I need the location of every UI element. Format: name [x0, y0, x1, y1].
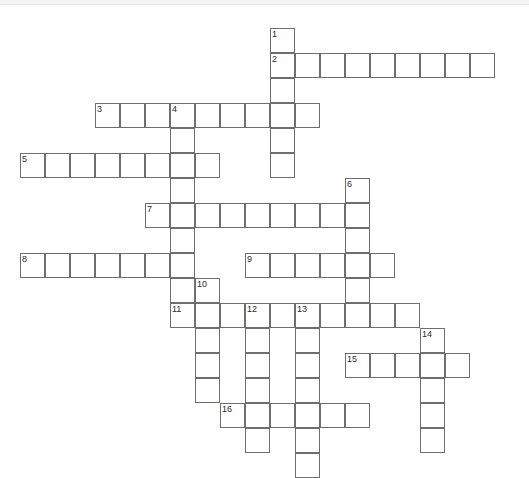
crossword-cell[interactable]	[195, 353, 220, 378]
crossword-cell[interactable]	[120, 253, 145, 278]
crossword-cell[interactable]	[370, 353, 395, 378]
crossword-cell[interactable]	[295, 328, 320, 353]
crossword-cell[interactable]	[295, 353, 320, 378]
crossword-cell[interactable]	[295, 453, 320, 478]
crossword-cell[interactable]	[295, 53, 320, 78]
crossword-cell[interactable]	[420, 378, 445, 403]
crossword-cell[interactable]	[270, 403, 295, 428]
crossword-cell[interactable]	[70, 153, 95, 178]
crossword-cell[interactable]	[370, 53, 395, 78]
crossword-cell[interactable]	[270, 303, 295, 328]
crossword-cell[interactable]	[220, 303, 245, 328]
crossword-cell[interactable]	[170, 153, 195, 178]
crossword-cell[interactable]	[420, 53, 445, 78]
crossword-cell[interactable]	[145, 153, 170, 178]
crossword-cell[interactable]	[420, 403, 445, 428]
crossword-cell[interactable]	[345, 278, 370, 303]
crossword-cell[interactable]	[420, 353, 445, 378]
crossword-cell[interactable]	[245, 203, 270, 228]
crossword-cell[interactable]	[270, 28, 295, 53]
crossword-cell[interactable]	[295, 403, 320, 428]
crossword-cell[interactable]	[195, 278, 220, 303]
crossword-cell[interactable]	[270, 203, 295, 228]
crossword-cell[interactable]	[320, 203, 345, 228]
crossword-cell[interactable]	[395, 303, 420, 328]
crossword-cell[interactable]	[245, 378, 270, 403]
crossword-cell[interactable]	[195, 103, 220, 128]
crossword-cell[interactable]	[20, 153, 45, 178]
crossword-cell[interactable]	[295, 253, 320, 278]
crossword-cell[interactable]	[145, 203, 170, 228]
crossword-cell[interactable]	[395, 353, 420, 378]
crossword-cell[interactable]	[220, 203, 245, 228]
crossword-cell[interactable]	[270, 153, 295, 178]
crossword-cell[interactable]	[195, 303, 220, 328]
crossword-cell[interactable]	[170, 228, 195, 253]
crossword-cell[interactable]	[245, 328, 270, 353]
crossword-cell[interactable]	[370, 303, 395, 328]
crossword-cell[interactable]	[345, 53, 370, 78]
crossword-cell[interactable]	[420, 428, 445, 453]
crossword-cell[interactable]	[220, 403, 245, 428]
crossword-cell[interactable]	[245, 253, 270, 278]
crossword-cell[interactable]	[445, 53, 470, 78]
crossword-cell[interactable]	[170, 253, 195, 278]
crossword-cell[interactable]	[320, 53, 345, 78]
crossword-cell[interactable]	[145, 103, 170, 128]
crossword-cell[interactable]	[295, 428, 320, 453]
crossword-cell[interactable]	[245, 353, 270, 378]
crossword-cell[interactable]	[195, 153, 220, 178]
crossword-cell[interactable]	[170, 178, 195, 203]
crossword-cell[interactable]	[45, 153, 70, 178]
crossword-cell[interactable]	[345, 228, 370, 253]
crossword-cell[interactable]	[245, 103, 270, 128]
crossword-cell[interactable]	[195, 203, 220, 228]
crossword-cell[interactable]	[345, 203, 370, 228]
crossword-cell[interactable]	[95, 153, 120, 178]
crossword-cell[interactable]	[295, 378, 320, 403]
crossword-cell[interactable]	[170, 203, 195, 228]
crossword-cell[interactable]	[270, 103, 295, 128]
crossword-cell[interactable]	[295, 303, 320, 328]
crossword-cell[interactable]	[345, 253, 370, 278]
crossword-cell[interactable]	[245, 303, 270, 328]
crossword-cell[interactable]	[470, 53, 495, 78]
crossword-cell[interactable]	[345, 403, 370, 428]
crossword-cell[interactable]	[95, 253, 120, 278]
crossword-cell[interactable]	[345, 303, 370, 328]
crossword-cell[interactable]	[320, 303, 345, 328]
crossword-cell[interactable]	[195, 328, 220, 353]
crossword-cell[interactable]	[95, 103, 120, 128]
crossword-cell[interactable]	[370, 253, 395, 278]
crossword-cell[interactable]	[295, 103, 320, 128]
crossword-cell[interactable]	[245, 428, 270, 453]
crossword-cell[interactable]	[145, 253, 170, 278]
crossword-cell[interactable]	[270, 128, 295, 153]
crossword-cell[interactable]	[245, 403, 270, 428]
crossword-cell[interactable]	[120, 103, 145, 128]
crossword-cell[interactable]	[270, 253, 295, 278]
crossword-cell[interactable]	[270, 53, 295, 78]
crossword-cell[interactable]	[20, 253, 45, 278]
crossword-cell[interactable]	[170, 303, 195, 328]
crossword-cell[interactable]	[170, 278, 195, 303]
crossword-cell[interactable]	[395, 53, 420, 78]
crossword-cell[interactable]	[170, 128, 195, 153]
crossword-cell[interactable]	[170, 103, 195, 128]
crossword-cell[interactable]	[295, 203, 320, 228]
crossword-cell[interactable]	[345, 353, 370, 378]
crossword-cell[interactable]	[220, 103, 245, 128]
crossword-cell[interactable]	[270, 78, 295, 103]
crossword-cell[interactable]	[320, 253, 345, 278]
crossword-cell[interactable]	[345, 178, 370, 203]
crossword-cell[interactable]	[445, 353, 470, 378]
crossword-cell[interactable]	[320, 403, 345, 428]
crossword-cell[interactable]	[120, 153, 145, 178]
crossword-cell[interactable]	[70, 253, 95, 278]
crossword-cell[interactable]	[195, 378, 220, 403]
crossword-cell[interactable]	[420, 328, 445, 353]
crossword-cell[interactable]	[45, 253, 70, 278]
